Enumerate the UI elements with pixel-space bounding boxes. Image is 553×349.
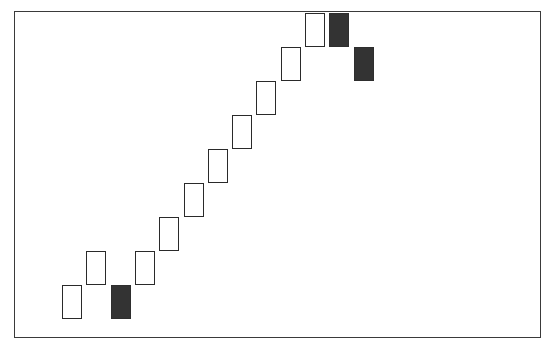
renko-brick-down bbox=[329, 13, 349, 47]
renko-brick-up bbox=[256, 81, 276, 115]
renko-brick-up bbox=[184, 183, 204, 217]
renko-brick-down bbox=[111, 285, 131, 319]
renko-brick-up bbox=[62, 285, 82, 319]
renko-brick-up bbox=[305, 13, 325, 47]
chart-frame bbox=[14, 11, 541, 338]
renko-brick-up bbox=[159, 217, 179, 251]
renko-brick-up bbox=[135, 251, 155, 285]
renko-brick-down bbox=[354, 47, 374, 81]
renko-brick-up bbox=[281, 47, 301, 81]
renko-brick-up bbox=[232, 115, 252, 149]
renko-brick-up bbox=[86, 251, 106, 285]
renko-brick-up bbox=[208, 149, 228, 183]
